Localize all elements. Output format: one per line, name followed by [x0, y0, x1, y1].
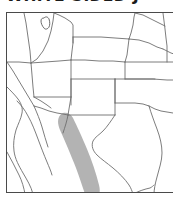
figure-title-strip: WHITE-SIDED J — [0, 0, 173, 7]
boundary-oklahoma-texas-north — [115, 103, 149, 106]
boundary-dakota-east — [163, 13, 167, 62]
boundary-oregon-east — [24, 13, 31, 63]
boundary-arizona-south — [34, 106, 68, 115]
boundary-montana-wyoming — [73, 37, 129, 39]
boundary-texas-west-riogrande — [92, 115, 133, 193]
map-graphic — [7, 13, 173, 193]
boundary-kansas-oklahoma — [125, 79, 173, 80]
boundary-nebraska-southdakota — [129, 39, 163, 49]
boundary-oregon-south — [7, 62, 31, 63]
boundary-montana-northdakota — [129, 13, 135, 39]
boundary-idaho-south — [31, 60, 71, 63]
lakes-layer — [41, 17, 50, 29]
coastline-gulf-of-california — [34, 106, 48, 147]
range-shading-layer — [58, 113, 100, 193]
boundary-wyoming-east — [125, 39, 129, 62]
boundary-texas-east — [149, 106, 162, 193]
page-title: WHITE-SIDED J — [6, 0, 139, 5]
boundary-oklahoma-texas-red-river — [149, 106, 173, 113]
boundary-nevada-west — [7, 62, 34, 106]
boundary-wyoming-west — [71, 37, 73, 60]
boundary-nevada-utah — [31, 63, 34, 97]
range-map-figure: WHITE-SIDED J — [0, 0, 173, 198]
boundary-montana-south — [54, 13, 73, 43]
boundary-northdakota-southdakota — [135, 13, 165, 26]
great-salt-lake-shape — [41, 17, 50, 29]
boundary-southdakota-nebraska-bend — [163, 49, 173, 56]
boundary-texas-gulf-bend — [133, 185, 154, 193]
boundary-arizona-newmexico — [68, 97, 71, 115]
species-range-polygon — [58, 113, 100, 193]
coastline-layer — [7, 87, 52, 193]
map-panel — [6, 12, 173, 193]
boundary-wyoming-south — [71, 60, 125, 62]
